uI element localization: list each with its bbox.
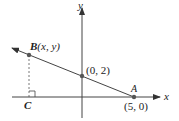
right-angle-marker xyxy=(29,91,35,97)
point-b-label: B(x, y) xyxy=(29,40,60,53)
point-b xyxy=(27,53,31,57)
point-c-label: C xyxy=(24,99,32,111)
point-b-coords: (x, y) xyxy=(37,40,60,53)
point-a xyxy=(132,95,136,99)
x-axis-label: x xyxy=(163,90,169,102)
coordinate-diagram: y x B(x, y) (0, 2) A (5, 0) C xyxy=(0,0,179,121)
y-axis-label: y xyxy=(77,0,83,11)
point-y-intercept xyxy=(80,74,84,78)
point-b-letter: B xyxy=(29,40,37,52)
point-a-label: A xyxy=(130,83,138,94)
point-a-coords: (5, 0) xyxy=(124,100,148,113)
y-intercept-label: (0, 2) xyxy=(86,64,110,77)
